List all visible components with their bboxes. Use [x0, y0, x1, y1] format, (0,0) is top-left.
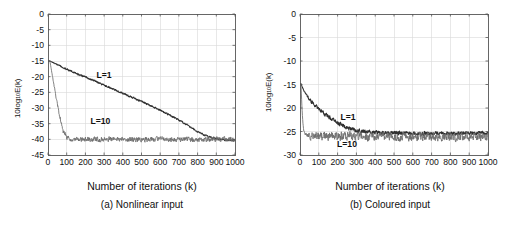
y-tick-label: -45	[32, 150, 45, 160]
y-tick-label: -10	[32, 40, 45, 50]
y-tick-label: -40	[32, 134, 45, 144]
y-tick-label: 0	[39, 9, 44, 19]
y-tick-label: -35	[32, 119, 45, 129]
panel-nonlinear-input: 010020030040050060070080090010000-5-10-1…	[0, 0, 255, 225]
x-tick-label: 900	[209, 157, 224, 167]
y-tick-label: -15	[284, 80, 297, 90]
x-tick-label: 800	[190, 157, 205, 167]
y-tick-label: -25	[32, 87, 45, 97]
y-axis-title-b: 10log10E(k)	[264, 73, 273, 112]
y-tick-label: -25	[284, 127, 297, 137]
y-tick-label: 0	[291, 9, 296, 19]
y-tick-label: -20	[284, 103, 297, 113]
series-annotation: L=10	[90, 116, 110, 126]
x-tick-label: 300	[349, 157, 364, 167]
x-tick-label: 600	[406, 157, 421, 167]
x-tick-label: 1000	[225, 157, 244, 167]
y-axis-title-a: 10log10E(k)	[13, 79, 22, 118]
x-tick-label: 600	[153, 157, 168, 167]
series-annotation: L=1	[97, 70, 112, 80]
y-axis-title-a-main: 10log	[13, 99, 22, 118]
y-tick-label: -10	[284, 56, 297, 66]
x-tick-label: 500	[134, 157, 149, 167]
y-tick-label: -30	[284, 150, 297, 160]
y-axis-title-b-sub: 10	[266, 87, 272, 93]
y-axis-title-a-sub: 10	[15, 93, 21, 99]
x-axis-title-b: Number of iterations (k)	[290, 180, 490, 192]
y-axis-title-b-tail: E(k)	[264, 73, 273, 87]
x-tick-label: 200	[78, 157, 93, 167]
x-tick-label: 100	[60, 157, 75, 167]
y-axis-title-b-main: 10log	[264, 93, 273, 112]
series-annotation: L=10	[337, 139, 357, 149]
y-tick-label: -30	[32, 103, 45, 113]
x-tick-label: 100	[312, 157, 327, 167]
x-tick-label: 0	[46, 157, 51, 167]
x-tick-label: 200	[330, 157, 345, 167]
x-tick-label: 700	[172, 157, 187, 167]
x-tick-label: 800	[443, 157, 458, 167]
panel-coloured-input: 010020030040050060070080090010000-5-10-1…	[255, 0, 509, 225]
x-tick-label: 0	[298, 157, 303, 167]
y-tick-label: -20	[32, 72, 45, 82]
x-tick-label: 500	[387, 157, 402, 167]
x-tick-label: 900	[462, 157, 477, 167]
x-tick-label: 1000	[478, 157, 497, 167]
x-axis-title-a: Number of iterations (k)	[48, 180, 236, 192]
x-tick-label: 300	[97, 157, 112, 167]
series-annotation: L=1	[340, 112, 355, 122]
y-axis-title-a-tail: E(k)	[13, 79, 22, 93]
x-tick-label: 700	[424, 157, 439, 167]
panel-caption-a: (a) Nonlinear input	[48, 199, 236, 210]
y-tick-label: -5	[36, 25, 44, 35]
panel-caption-b: (b) Coloured input	[290, 199, 490, 210]
y-tick-label: -15	[32, 56, 45, 66]
x-tick-label: 400	[116, 157, 131, 167]
x-tick-label: 400	[368, 157, 383, 167]
figure-container: 010020030040050060070080090010000-5-10-1…	[0, 0, 509, 225]
y-tick-label: -5	[288, 33, 296, 43]
